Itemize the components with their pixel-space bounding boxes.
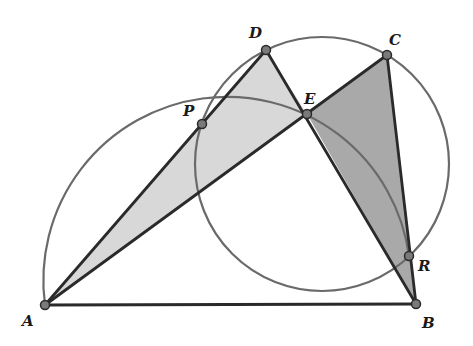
point-C	[383, 51, 392, 60]
triangle-ECB	[307, 55, 416, 304]
label-R: R	[417, 257, 430, 275]
geometry-diagram: A B C D E P R	[0, 0, 473, 346]
label-C: C	[389, 31, 401, 49]
label-B: B	[421, 314, 435, 332]
point-P	[198, 120, 207, 129]
point-A	[41, 301, 50, 310]
point-B	[412, 300, 421, 309]
point-R	[405, 252, 414, 261]
point-E	[303, 110, 312, 119]
segment-AB	[45, 304, 416, 305]
point-D	[262, 46, 271, 55]
label-A: A	[20, 312, 34, 330]
triangle-ADE	[45, 50, 307, 305]
label-E: E	[303, 90, 316, 108]
label-D: D	[248, 24, 262, 42]
segment-AD	[45, 50, 266, 305]
label-P: P	[182, 102, 195, 120]
